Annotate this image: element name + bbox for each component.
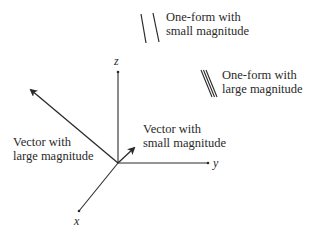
one-form-small-label-line2: small magnitude (166, 24, 249, 38)
diagram-svg (0, 0, 319, 237)
one-form-large-label-line2: large magnitude (222, 82, 303, 96)
x-axis-endpoint-icon (78, 210, 81, 213)
x-axis-label: x (74, 214, 79, 229)
vector-small-label-line2: small magnitude (143, 136, 226, 150)
one-form-large-label-line1: One-form with (222, 68, 303, 82)
y-axis (118, 162, 209, 165)
y-axis-label: y (213, 156, 218, 171)
vector-small-label-line1: Vector with (143, 122, 226, 136)
vector-small-magnitude (118, 148, 134, 163)
z-axis-endpoint-icon (117, 71, 120, 74)
vector-large-label: Vector with large magnitude (13, 135, 94, 163)
vector-large-label-line2: large magnitude (13, 149, 94, 163)
one-form-small-label: One-form with small magnitude (166, 10, 249, 38)
one-form-large-magnitude (201, 70, 217, 97)
vector-large-label-line1: Vector with (13, 135, 94, 149)
y-axis-endpoint-icon (207, 162, 210, 165)
one-form-small-label-line1: One-form with (166, 10, 249, 24)
diagram-canvas: z y x One-form with small magnitude One-… (0, 0, 319, 237)
vector-small-label: Vector with small magnitude (143, 122, 226, 150)
z-axis-label: z (114, 54, 119, 69)
one-form-small-magnitude (141, 13, 159, 43)
z-axis (117, 71, 120, 163)
one-form-large-label: One-form with large magnitude (222, 68, 303, 96)
x-axis (78, 163, 118, 212)
arrow-icon (118, 148, 134, 163)
